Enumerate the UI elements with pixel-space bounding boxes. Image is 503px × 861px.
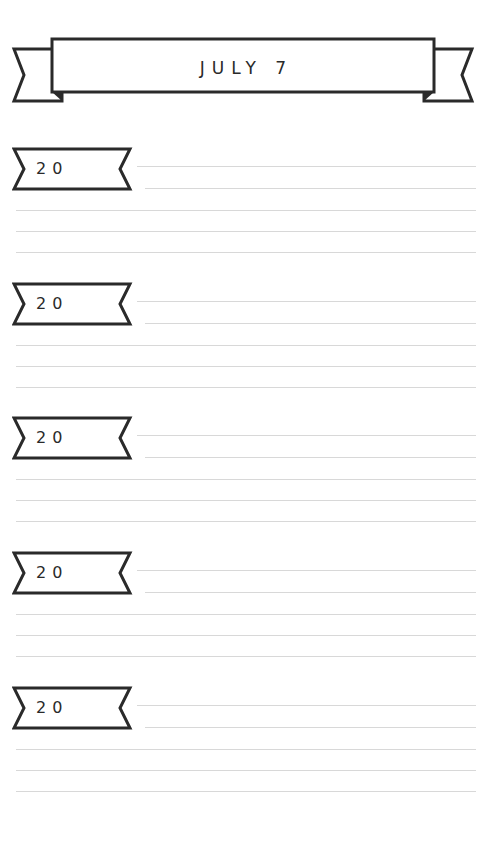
writing-line[interactable]	[145, 592, 476, 593]
year-tag: 20	[12, 416, 134, 460]
writing-line[interactable]	[145, 727, 476, 728]
ribbon-tag-icon	[12, 147, 134, 191]
writing-line[interactable]	[145, 323, 476, 324]
writing-line[interactable]	[145, 457, 476, 458]
writing-line[interactable]	[16, 770, 476, 771]
writing-line[interactable]	[16, 500, 476, 501]
writing-line[interactable]	[16, 635, 476, 636]
writing-line[interactable]	[137, 301, 476, 302]
writing-line[interactable]	[137, 435, 476, 436]
year-entry-section: 20	[0, 147, 503, 277]
date-title: JULY 7	[52, 38, 434, 98]
year-tag: 20	[12, 551, 134, 595]
writing-line[interactable]	[16, 231, 476, 232]
year-prefix[interactable]: 20	[36, 686, 68, 728]
ribbon-tag-icon	[12, 551, 134, 595]
date-banner: JULY 7	[0, 0, 503, 110]
writing-line[interactable]	[16, 210, 476, 211]
year-tag: 20	[12, 282, 134, 326]
year-entry-section: 20	[0, 686, 503, 816]
writing-line[interactable]	[137, 705, 476, 706]
writing-line[interactable]	[16, 479, 476, 480]
ribbon-tag-icon	[12, 282, 134, 326]
writing-line[interactable]	[16, 345, 476, 346]
writing-line[interactable]	[16, 252, 476, 253]
writing-line[interactable]	[16, 749, 476, 750]
year-tag: 20	[12, 686, 134, 730]
year-tag: 20	[12, 147, 134, 191]
writing-line[interactable]	[137, 166, 476, 167]
writing-line[interactable]	[16, 614, 476, 615]
year-prefix[interactable]: 20	[36, 282, 68, 324]
writing-line[interactable]	[137, 570, 476, 571]
year-prefix[interactable]: 20	[36, 551, 68, 593]
ribbon-tag-icon	[12, 416, 134, 460]
writing-line[interactable]	[16, 521, 476, 522]
year-prefix[interactable]: 20	[36, 147, 68, 189]
writing-line[interactable]	[16, 656, 476, 657]
year-entry-section: 20	[0, 551, 503, 681]
writing-line[interactable]	[16, 366, 476, 367]
writing-line[interactable]	[145, 188, 476, 189]
ribbon-tag-icon	[12, 686, 134, 730]
writing-line[interactable]	[16, 791, 476, 792]
year-entry-section: 20	[0, 282, 503, 412]
year-prefix[interactable]: 20	[36, 416, 68, 458]
year-entry-section: 20	[0, 416, 503, 546]
writing-line[interactable]	[16, 387, 476, 388]
